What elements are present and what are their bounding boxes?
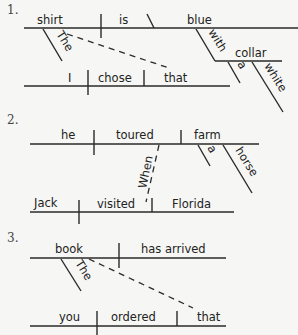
word-modifier: horse <box>232 144 261 179</box>
word-subject: I <box>68 71 71 85</box>
sentence-diagrams: 1. shirt is blue The When with collar a … <box>0 0 298 335</box>
diagram-number: 3. <box>7 231 18 245</box>
word-verb: chose <box>98 71 132 85</box>
word-verb: visited <box>97 197 135 211</box>
relative-link-dashed <box>89 259 193 308</box>
word-object: farm <box>194 128 221 142</box>
word-modifier: The <box>53 27 77 53</box>
word-modifier: white <box>261 60 290 94</box>
word-subject: he <box>61 128 75 142</box>
word-subject: shirt <box>37 13 63 27</box>
diagram-1: 1. shirt is blue The When with collar a … <box>7 3 298 112</box>
word-verb: is <box>119 13 128 27</box>
word-object: that <box>197 310 221 324</box>
word-object: that <box>164 71 188 85</box>
diagram-2: 2. he toured farm a horse When Jack visi… <box>7 113 261 224</box>
word-modifier: a <box>234 58 250 71</box>
word-verb: toured <box>116 128 154 142</box>
word-subject: Jack <box>33 196 58 210</box>
relative-link-dashed <box>67 34 169 68</box>
complement-divider <box>147 14 154 28</box>
word-complement: blue <box>187 13 212 27</box>
word-subject: you <box>59 310 80 324</box>
diagram-number: 2. <box>7 113 18 127</box>
diagram-number: 1. <box>7 3 18 17</box>
word-object: Florida <box>172 197 211 211</box>
word-verb: ordered <box>111 310 156 324</box>
diagram-3: 3. book has arrived The you ordered that <box>7 231 226 335</box>
word-verb: has arrived <box>141 242 206 256</box>
word-prep-object: collar <box>235 46 267 60</box>
word-subject: book <box>55 242 83 256</box>
